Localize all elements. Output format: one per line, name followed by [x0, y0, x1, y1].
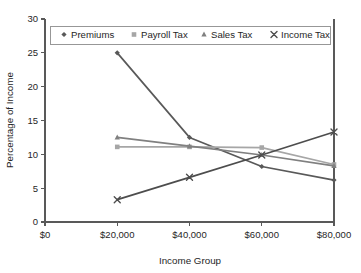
- legend-item-payroll-tax[interactable]: Payroll Tax: [132, 29, 188, 40]
- x-tick-label: $0: [40, 229, 51, 240]
- series-line-payroll-tax: [117, 147, 334, 165]
- legend-marker-income-tax-cross: [271, 32, 277, 38]
- legend-label-sales-tax: Sales Tax: [211, 29, 253, 40]
- legend-marker-income-tax: [271, 32, 277, 38]
- datapoint-premiums-diamond: [331, 177, 336, 182]
- x-tick-label: $20,000: [100, 229, 134, 240]
- legend-item-income-tax[interactable]: Income Tax: [271, 29, 330, 40]
- line-chart: 051015202530 $0$20,000$40,000$60,000$80,…: [0, 0, 361, 273]
- y-axis-ticks: 051015202530: [27, 13, 45, 227]
- datapoint-payroll-tax-square: [259, 145, 264, 150]
- x-axis-ticks: $0$20,000$40,000$60,000$80,000: [40, 222, 351, 240]
- datapoint-premiums: [259, 164, 264, 169]
- legend-label-payroll-tax: Payroll Tax: [141, 29, 188, 40]
- x-tick-label: $40,000: [172, 229, 206, 240]
- y-tick-label: 10: [27, 149, 38, 160]
- y-tick-label: 30: [27, 13, 38, 24]
- datapoint-payroll-tax: [115, 145, 120, 150]
- x-tick-label: $80,000: [317, 229, 351, 240]
- legend-marker-payroll-tax-square: [132, 32, 137, 37]
- legend-marker-premiums-diamond: [61, 32, 66, 37]
- series-income-tax: [114, 129, 337, 203]
- y-tick-label: 5: [33, 183, 38, 194]
- y-tick-label: 20: [27, 81, 38, 92]
- series-sales-tax: [115, 135, 337, 168]
- chart-legend: PremiumsPayroll TaxSales TaxIncome Tax: [50, 26, 330, 44]
- plot-axes: [45, 19, 334, 222]
- y-tick-label: 15: [27, 115, 38, 126]
- legend-marker-sales-tax-triangle: [201, 32, 206, 37]
- x-axis-title: Income Group: [159, 255, 222, 266]
- legend-label-income-tax: Income Tax: [281, 29, 330, 40]
- chart-canvas: 051015202530 $0$20,000$40,000$60,000$80,…: [0, 0, 361, 273]
- series-premiums: [115, 50, 337, 182]
- y-tick-label: 0: [33, 216, 38, 227]
- x-tick-label: $60,000: [245, 229, 279, 240]
- series-payroll-tax: [115, 145, 336, 167]
- datapoint-premiums: [331, 177, 336, 182]
- y-axis-title: Percentage of Income: [4, 72, 15, 168]
- datapoint-payroll-tax: [259, 145, 264, 150]
- legend-marker-premiums: [61, 32, 66, 37]
- legend-marker-sales-tax: [201, 32, 206, 37]
- plot-frame: [45, 19, 334, 222]
- legend-label-premiums: Premiums: [71, 29, 114, 40]
- legend-item-sales-tax[interactable]: Sales Tax: [201, 29, 252, 40]
- datapoint-payroll-tax-square: [115, 145, 120, 150]
- legend-item-premiums[interactable]: Premiums: [61, 29, 114, 40]
- legend-marker-payroll-tax: [132, 32, 137, 37]
- y-tick-label: 25: [27, 47, 38, 58]
- series-layer: [114, 50, 337, 202]
- datapoint-premiums-diamond: [259, 164, 264, 169]
